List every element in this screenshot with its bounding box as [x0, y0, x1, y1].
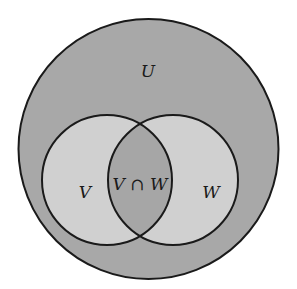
set-w-label: W	[202, 182, 221, 202]
venn-diagram: U V V ∩ W W	[0, 0, 297, 289]
set-v-label: V	[79, 182, 93, 202]
intersection-label: V ∩ W	[113, 174, 169, 194]
universe-label: U	[141, 61, 156, 81]
